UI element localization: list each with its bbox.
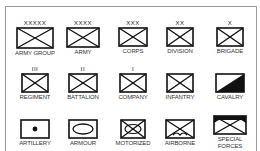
echelon-marker — [205, 66, 255, 73]
symbol-armour: ARMOUR — [58, 112, 108, 147]
symbol-label: BATTALION — [58, 94, 108, 101]
symbol-division: XX DIVISION — [155, 20, 205, 55]
symbol-label: ARMY GROUP — [10, 50, 60, 57]
symbol-label: COMPANY — [108, 94, 158, 101]
symbol-brigade: X BRIGADE — [205, 20, 255, 55]
symbol-label: INFANTRY — [155, 94, 205, 101]
symbol-corps: XXX CORPS — [108, 20, 158, 55]
echelon-marker: III — [10, 66, 60, 73]
echelon-marker: X — [205, 20, 255, 27]
symbol-label: ARTILLERY — [10, 140, 60, 147]
symbol-artillery: ARTILLERY — [10, 112, 60, 147]
infantry-cross-icon — [16, 27, 54, 49]
symbol-infantry: INFANTRY — [155, 66, 205, 101]
symbol-special-forces: SPECIAL FORCES — [205, 108, 255, 150]
infantry-cross-icon — [118, 27, 148, 47]
echelon-marker: I — [108, 66, 158, 73]
echelon-marker: XXX — [108, 20, 158, 27]
echelon-marker — [58, 112, 108, 119]
symbol-label: DIVISION — [155, 48, 205, 55]
airborne-cross-icon — [165, 119, 195, 139]
infantry-cross-icon — [119, 73, 147, 93]
symbol-motorized: MOTORIZED — [108, 112, 158, 147]
echelon-marker: XX — [155, 20, 205, 27]
echelon-marker — [205, 108, 255, 115]
symbol-battalion: II BATTALION — [58, 66, 108, 101]
symbol-label: AIRBORNE — [155, 140, 205, 147]
artillery-dot-icon — [20, 119, 50, 139]
echelon-marker: II — [58, 66, 108, 73]
symbol-label: CAVALRY — [205, 94, 255, 101]
symbol-airborne: AIRBORNE — [155, 112, 205, 147]
armour-oval-icon — [68, 119, 98, 139]
symbol-label: ARMOUR — [58, 140, 108, 147]
cavalry-diagonal-icon — [215, 73, 245, 93]
symbol-army: XXXX ARMY — [58, 20, 108, 56]
echelon-marker — [155, 112, 205, 119]
infantry-cross-icon — [68, 73, 98, 93]
infantry-cross-icon — [66, 27, 100, 48]
symbol-company: I COMPANY — [108, 66, 158, 101]
echelon-marker — [108, 112, 158, 119]
echelon-marker: XXXX — [58, 20, 108, 27]
infantry-cross-icon — [166, 73, 194, 93]
echelon-marker — [10, 112, 60, 119]
symbol-label: REGIMENT — [10, 94, 60, 101]
symbol-label: BRIGADE — [205, 48, 255, 55]
symbol-label: CORPS — [108, 48, 158, 55]
special-forces-icon — [213, 115, 247, 135]
symbol-label: MOTORIZED — [108, 140, 158, 147]
motorized-cross-oval-icon — [120, 119, 146, 139]
infantry-cross-icon — [21, 73, 49, 93]
symbol-army-group: XXXXX ARMY GROUP — [10, 20, 60, 57]
symbol-label: SPECIAL FORCES — [213, 136, 247, 150]
symbol-regiment: III REGIMENT — [10, 66, 60, 101]
infantry-cross-icon — [216, 27, 244, 47]
infantry-cross-icon — [166, 27, 194, 47]
echelon-marker: XXXXX — [10, 20, 60, 27]
symbol-cavalry: CAVALRY — [205, 66, 255, 101]
symbol-label: ARMY — [58, 49, 108, 56]
echelon-marker — [155, 66, 205, 73]
